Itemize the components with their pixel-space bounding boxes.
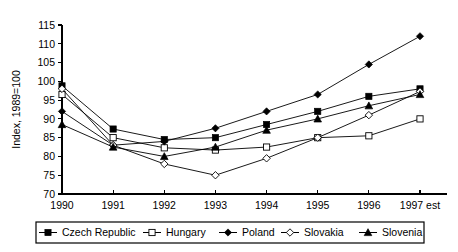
y-axis-tick-label: 70: [43, 188, 55, 200]
series-line: [62, 94, 420, 156]
y-axis-tick-label: 75: [43, 169, 55, 181]
chart-series: [58, 33, 424, 179]
data-point-marker-open-square: [110, 135, 116, 141]
data-point-marker-open-square: [366, 133, 372, 139]
data-point-marker-filled-square: [45, 229, 51, 235]
chart-legend: Czech RepublicHungaryPolandSlovakiaSlove…: [36, 222, 424, 243]
legend-label: Poland: [242, 226, 275, 238]
y-axis-tick-label: 80: [43, 150, 55, 162]
chart-axes: [62, 25, 447, 194]
x-axis-tick-label: 1993: [204, 199, 228, 211]
line-chart: Index, 1989=100 707580859095100105110115…: [0, 0, 458, 252]
y-axis-tick-label: 95: [43, 94, 55, 106]
data-point-marker-filled-square: [315, 108, 321, 114]
series-slovenia: [58, 91, 424, 160]
data-point-marker-filled-diamond: [314, 91, 321, 98]
x-axis-tick-labels: 19901991199219931994199519961997 est: [50, 190, 440, 211]
data-point-marker-filled-triangle: [58, 121, 66, 128]
data-point-marker-open-diamond: [365, 111, 372, 118]
y-axis-tick-label: 85: [43, 131, 55, 143]
x-axis-tick-label: 1990: [50, 199, 74, 211]
y-axis-tick-labels: 707580859095100105110115: [37, 19, 62, 200]
data-point-marker-filled-diamond: [58, 108, 65, 115]
y-axis-tick-label: 115: [38, 19, 55, 31]
y-axis-tick-label: 90: [43, 113, 55, 125]
legend-label: Czech Republic: [62, 226, 136, 238]
data-point-marker-filled-diamond: [263, 108, 270, 115]
legend-label: Slovakia: [304, 226, 344, 238]
x-axis-tick-label: 1991: [101, 199, 125, 211]
x-axis-tick-label: 1995: [306, 199, 330, 211]
data-point-marker-open-diamond: [212, 172, 219, 179]
data-point-marker-open-diamond: [161, 160, 168, 167]
data-point-marker-filled-diamond: [212, 125, 219, 132]
data-point-marker-filled-square: [212, 135, 218, 141]
data-point-marker-open-diamond: [263, 155, 270, 162]
y-axis-tick-label: 110: [38, 38, 55, 50]
x-axis-tick-label: 1997 est: [400, 199, 440, 211]
y-axis-tick-label: 100: [37, 75, 55, 87]
data-point-marker-open-square: [161, 145, 167, 151]
legend-label: Slovenia: [382, 226, 422, 238]
y-axis-title: Index, 1989=100: [10, 70, 22, 149]
x-axis-tick-label: 1996: [357, 199, 381, 211]
data-point-marker-open-square: [263, 144, 269, 150]
data-point-marker-filled-diamond: [416, 33, 423, 40]
data-point-marker-filled-diamond: [365, 61, 372, 68]
x-axis-tick-label: 1994: [255, 199, 279, 211]
y-axis-tick-label: 105: [37, 56, 55, 68]
data-point-marker-filled-square: [366, 93, 372, 99]
y-axis-title-text: Index, 1989=100: [10, 70, 22, 149]
data-point-marker-filled-square: [110, 126, 116, 132]
legend-label: Hungary: [166, 226, 206, 238]
chart-figure: Index, 1989=100 707580859095100105110115…: [0, 0, 458, 252]
x-axis-tick-label: 1992: [153, 199, 177, 211]
data-point-marker-open-square: [149, 229, 155, 235]
data-point-marker-open-square: [417, 116, 423, 122]
series-line: [62, 94, 420, 150]
